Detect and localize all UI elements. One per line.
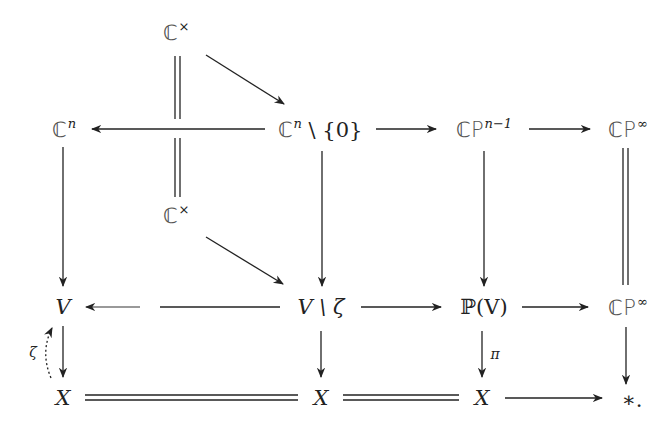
label-pi: π [490, 346, 499, 362]
node-cpinf-top: ℂP∞ [608, 117, 648, 141]
commutative-diagram: ℂ× ℂ× ℂn ℂn \ {0} ℂPn−1 ℂP∞ V V \ ζ ℙ(V)… [0, 0, 672, 427]
node-cstar-mid: ℂ× [163, 203, 190, 227]
node-x1: X [56, 388, 71, 409]
node-x3: X [475, 388, 490, 409]
node-cstar-top: ℂ× [163, 20, 190, 44]
node-v-minus-zeta: V \ ζ [298, 297, 345, 318]
node-cn: ℂn [52, 117, 76, 141]
node-v: V [55, 297, 70, 318]
node-cn-minus-0: ℂn \ {0} [278, 117, 363, 141]
node-x2: X [314, 388, 329, 409]
label-zeta: ζ [29, 344, 37, 360]
dotted-section-zeta [46, 328, 52, 378]
arrow-cstar-mid-to-v-minus-zeta [206, 237, 283, 284]
arrow-cstar-top-to-cn-minus-0 [206, 55, 284, 104]
node-point: ∗. [622, 390, 643, 411]
node-pv: ℙ(V) [460, 297, 507, 318]
node-cpinf-mid: ℂP∞ [608, 295, 648, 319]
node-cpn1: ℂPn−1 [456, 117, 512, 141]
diagram-arrows [0, 0, 672, 427]
